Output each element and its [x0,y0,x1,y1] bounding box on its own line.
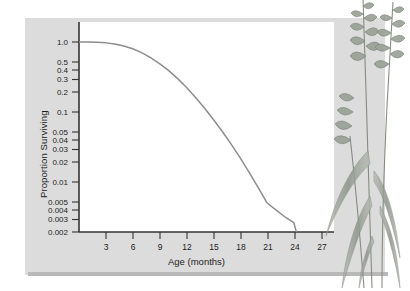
x-tick-label: 15 [204,242,224,252]
x-tick-label: 3 [96,242,116,252]
y-tick-label: 0.004 [32,206,68,215]
y-tick-label: 0.02 [36,158,68,167]
x-tick-label: 6 [123,242,143,252]
y-tick-label: 0.002 [32,228,68,237]
x-axis-ticks [106,232,322,239]
y-tick-label: 1.0 [40,38,68,47]
y-tick-label: 0.4 [40,66,68,75]
x-tick-label: 27 [312,242,332,252]
survivorship-curve [79,42,296,232]
y-tick-label: 0.01 [36,178,68,187]
figure-container: Proportion Surviving 1.0 0.5 0.4 0.3 0.2… [0,0,410,291]
y-axis-ticks [72,42,79,232]
x-tick-label: 9 [150,242,170,252]
x-axis-title: Age (months) [168,256,225,267]
y-tick-label: 0.003 [32,215,68,224]
x-tick-label: 12 [177,242,197,252]
y-tick-label: 0.04 [36,136,68,145]
x-tick-label: 21 [258,242,278,252]
y-tick-label: 0.03 [36,145,68,154]
x-tick-label: 24 [285,242,305,252]
x-tick-label: 18 [231,242,251,252]
y-tick-label: 0.1 [40,108,68,117]
y-tick-label: 0.3 [40,75,68,84]
y-tick-label: 0.2 [40,88,68,97]
